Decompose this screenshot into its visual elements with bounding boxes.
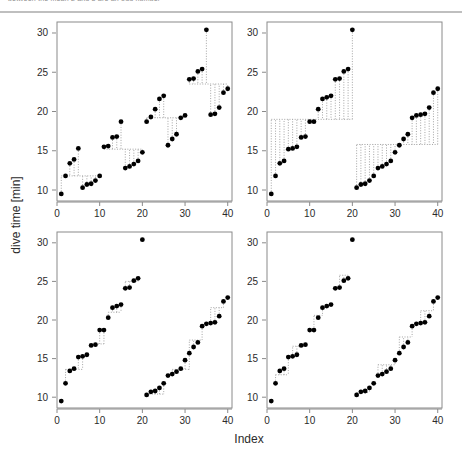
data-point [367,178,372,183]
data-point [119,119,124,124]
y-tick-label: 25 [247,276,259,287]
data-point [290,354,295,359]
data-point [149,389,154,394]
header-rule [0,11,462,13]
data-point [127,285,132,290]
data-point [67,161,72,166]
x-tick-label: 20 [137,415,149,426]
data-point [367,386,372,391]
data-point [136,159,141,164]
data-point [178,115,183,120]
data-point [174,132,179,137]
data-point [294,352,299,357]
data-point [337,76,342,81]
data-point [329,93,334,98]
data-point [157,97,162,102]
data-point [131,162,136,167]
x-tick-label: 20 [347,415,359,426]
data-point [183,358,188,363]
data-point [384,369,389,374]
data-point [388,366,393,371]
x-tick-label: 30 [389,208,401,219]
data-point [435,295,440,300]
data-point [299,343,304,348]
data-point [401,345,406,350]
data-point [170,372,175,377]
data-point [324,304,329,309]
data-point [320,305,325,310]
data-point [363,389,368,394]
x-tick-label: 30 [179,208,191,219]
x-tick-label: 0 [54,415,60,426]
data-point [269,399,274,404]
y-tick-label: 10 [37,185,49,196]
data-point [346,67,351,72]
x-axis-label: Index [234,432,263,446]
data-point [397,351,402,356]
data-point [221,90,226,95]
data-point [221,299,226,304]
data-point [136,276,141,281]
data-point [423,320,428,325]
data-point [123,286,128,291]
data-point [371,173,376,178]
data-point [89,343,94,348]
data-point [59,399,64,404]
data-point [405,340,410,345]
data-point [183,113,188,118]
data-point [208,321,213,326]
data-point [320,97,325,102]
data-point [307,328,312,333]
x-tick-label: 40 [222,415,234,426]
data-point [418,321,423,326]
data-point [405,132,410,137]
y-tick-label: 10 [247,392,259,403]
y-tick-label: 15 [37,353,49,364]
panel-border [267,232,442,408]
data-point [140,150,145,155]
data-point [225,295,230,300]
data-point [191,76,196,81]
data-point [350,27,355,32]
y-tick-label: 15 [37,145,49,156]
y-tick-label: 15 [247,145,259,156]
data-point [337,285,342,290]
y-tick-label: 10 [247,185,259,196]
data-point [123,166,128,171]
x-tick-label: 0 [54,208,60,219]
y-tick-label: 30 [37,237,49,248]
data-point [97,328,102,333]
data-point [269,192,274,197]
data-point [59,192,64,197]
data-point [72,366,77,371]
data-point [166,373,171,378]
data-point [72,157,77,162]
data-point [84,352,89,357]
data-point [102,328,107,333]
data-point [312,328,317,333]
data-point [312,119,317,124]
data-point [380,164,385,169]
y-tick-label: 30 [37,27,49,38]
data-point [359,389,364,394]
x-tick-label: 10 [304,208,316,219]
data-point [299,135,304,140]
data-point [427,314,432,319]
data-point [114,304,119,309]
data-point [63,381,68,386]
data-point [346,276,351,281]
data-point [397,143,402,148]
x-tick-label: 10 [94,415,106,426]
data-point [333,77,338,82]
x-tick-label: 0 [264,208,270,219]
data-point [393,358,398,363]
data-point [371,381,376,386]
data-point [307,119,312,124]
data-point [67,369,72,374]
data-point [144,392,149,397]
data-point [316,107,321,112]
data-point [153,107,158,112]
data-point [282,159,287,164]
x-tick-label: 10 [94,208,106,219]
data-point [170,137,175,142]
